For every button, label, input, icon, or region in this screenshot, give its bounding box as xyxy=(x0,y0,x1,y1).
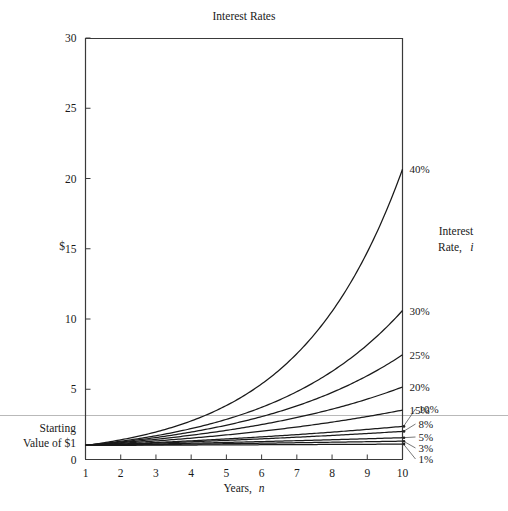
x-tick-label: 3 xyxy=(153,467,159,479)
series-label-30pct: 30% xyxy=(410,305,430,317)
y-tick-label: 0 xyxy=(71,454,77,466)
y-axis-label: $ xyxy=(59,240,65,252)
legend-title-line2: Rate, xyxy=(438,241,462,254)
y-tick-label: 25 xyxy=(65,102,77,114)
x-tick-label: 8 xyxy=(329,467,335,479)
y-tick-label: 20 xyxy=(65,173,77,185)
y-tick-label: 30 xyxy=(65,32,77,44)
x-tick-label: 6 xyxy=(259,467,265,479)
x-tick-label: 10 xyxy=(397,467,409,479)
x-tick-label: 5 xyxy=(224,467,230,479)
y-tick-label: 5 xyxy=(71,383,77,395)
legend-title-line3: i xyxy=(470,240,473,254)
legend-title-line1: Interest xyxy=(439,225,474,237)
chart-title: Interest Rates xyxy=(213,10,276,22)
starting-value-line2: Value of $1 xyxy=(23,437,76,449)
x-tick-label: 7 xyxy=(294,467,300,479)
y-tick-label: 15 xyxy=(65,243,77,255)
chart-canvas: Interest Rates 051015202530 12345678910 … xyxy=(0,0,508,511)
series-label-1pct: 1% xyxy=(419,453,434,465)
leader-dot xyxy=(403,440,406,443)
x-tick-label: 2 xyxy=(118,467,124,479)
leader-dot xyxy=(403,425,406,428)
x-tick-label: 9 xyxy=(364,467,370,479)
leader-dot xyxy=(403,443,406,446)
x-tick-label: 4 xyxy=(188,467,194,479)
starting-value-line1: Starting xyxy=(40,422,77,435)
series-label-20pct: 20% xyxy=(410,381,430,393)
series-label-10pct: 10% xyxy=(419,403,439,415)
leader-dot xyxy=(403,430,406,433)
series-label-25pct: 25% xyxy=(410,349,430,361)
leader-dot xyxy=(403,436,406,439)
interest-rates-chart: Interest Rates 051015202530 12345678910 … xyxy=(0,0,508,511)
series-label-40pct: 40% xyxy=(410,163,430,175)
x-tick-label: 1 xyxy=(83,467,89,479)
series-label-8pct: 8% xyxy=(419,418,434,430)
y-tick-label: 10 xyxy=(65,313,77,325)
x-axis-label: Years, n xyxy=(223,482,264,495)
